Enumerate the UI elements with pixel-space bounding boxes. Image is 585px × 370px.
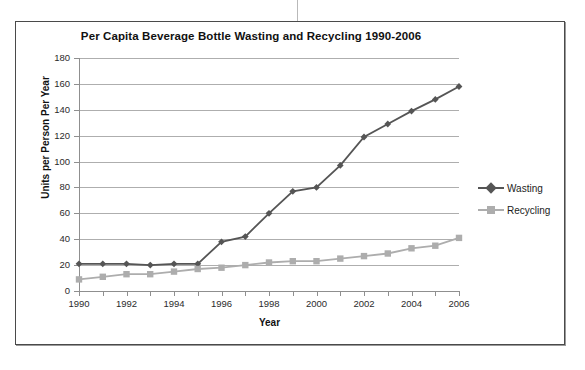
data-point-marker: [385, 250, 391, 256]
data-point-marker: [432, 96, 439, 103]
y-tick-label: 140: [36, 105, 70, 115]
y-tick-label: 180: [36, 53, 70, 63]
series-line: [79, 87, 459, 266]
x-tick-mark: [388, 291, 389, 296]
x-tick-label: 1992: [107, 299, 147, 309]
x-tick-label: 2004: [392, 299, 432, 309]
data-point-marker: [384, 121, 391, 128]
y-tick-label: 120: [36, 131, 70, 141]
scan-artifact-line: [297, 0, 298, 22]
x-tick-label: 1990: [59, 299, 99, 309]
x-tick-label: 2002: [344, 299, 384, 309]
x-tick-label: 1998: [249, 299, 289, 309]
legend-label: Recycling: [504, 205, 550, 216]
legend-label: Wasting: [504, 183, 543, 194]
legend-swatch-square-icon: [478, 204, 504, 216]
y-tick-label: 40: [36, 234, 70, 244]
data-point-marker: [195, 266, 201, 272]
data-point-marker: [171, 260, 178, 267]
x-tick-mark: [269, 291, 270, 296]
data-point-marker: [218, 265, 224, 271]
data-point-marker: [337, 255, 343, 261]
y-tick-label: 0: [36, 286, 70, 296]
x-tick-mark: [459, 291, 460, 296]
y-tick-label: 160: [36, 79, 70, 89]
x-tick-mark: [435, 291, 436, 296]
x-tick-label: 1994: [154, 299, 194, 309]
x-tick-mark: [103, 291, 104, 296]
x-tick-mark: [340, 291, 341, 296]
data-point-marker: [266, 259, 272, 265]
y-tick-label: 60: [36, 208, 70, 218]
x-tick-mark: [127, 291, 128, 296]
x-tick-mark: [222, 291, 223, 296]
data-point-marker: [408, 245, 414, 251]
series-line: [79, 238, 459, 279]
data-point-marker: [123, 271, 129, 277]
series-plot: [79, 58, 459, 291]
data-point-marker: [361, 253, 367, 259]
chart-legend: WastingRecycling: [478, 177, 562, 221]
data-point-marker: [147, 262, 154, 269]
x-tick-mark: [412, 291, 413, 296]
y-tick-label: 80: [36, 182, 70, 192]
data-point-marker: [76, 276, 82, 282]
data-point-marker: [76, 260, 83, 267]
data-point-marker: [432, 243, 438, 249]
data-point-marker: [242, 262, 248, 268]
x-tick-mark: [317, 291, 318, 296]
chart-frame: Per Capita Beverage Bottle Wasting and R…: [15, 21, 565, 345]
x-tick-mark: [174, 291, 175, 296]
x-tick-label: 2006: [439, 299, 479, 309]
data-point-marker: [456, 83, 463, 90]
x-axis-title: Year: [79, 317, 460, 328]
y-tick-label: 100: [36, 157, 70, 167]
data-point-marker: [313, 258, 319, 264]
y-tick-label: 20: [36, 260, 70, 270]
data-point-marker: [171, 268, 177, 274]
x-tick-label: 1996: [202, 299, 242, 309]
x-tick-label: 2000: [297, 299, 337, 309]
data-point-marker: [147, 271, 153, 277]
legend-item-wasting[interactable]: Wasting: [478, 177, 562, 199]
legend-item-recycling[interactable]: Recycling: [478, 199, 562, 221]
data-point-marker: [456, 235, 462, 241]
x-tick-mark: [79, 291, 80, 296]
data-point-marker: [100, 274, 106, 280]
x-tick-mark: [364, 291, 365, 296]
data-point-marker: [99, 260, 106, 267]
x-tick-mark: [293, 291, 294, 296]
x-tick-mark: [150, 291, 151, 296]
series-recycling: [76, 235, 462, 283]
series-wasting: [76, 83, 463, 268]
x-tick-mark: [198, 291, 199, 296]
data-point-marker: [123, 260, 130, 267]
x-tick-mark: [245, 291, 246, 296]
legend-swatch-diamond-icon: [478, 182, 504, 194]
data-point-marker: [290, 258, 296, 264]
data-point-marker: [408, 108, 415, 115]
